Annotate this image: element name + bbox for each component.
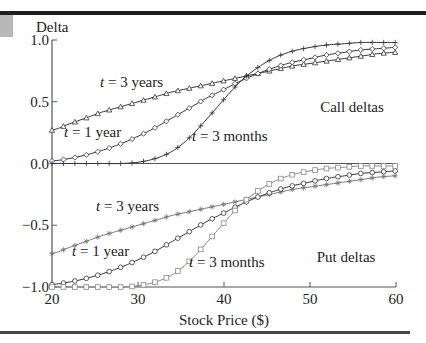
circle-marker [84,276,89,281]
circle-marker [130,260,135,265]
star-marker [347,179,352,184]
star-marker [107,231,112,236]
plus-marker [61,161,66,166]
square-marker [130,284,135,289]
circle-marker [73,279,78,284]
diamond-marker [301,57,306,62]
diamond-marker [107,145,112,150]
plus-marker [324,42,329,47]
circle-marker [347,173,352,178]
diamond-marker [393,45,398,50]
plus-marker [290,49,295,54]
diamond-marker [347,49,352,54]
series-square [50,164,398,290]
diamond-marker [221,87,226,92]
call-1y-label: t = 1 year [64,124,121,140]
y-tick-label: 0.0 [30,156,49,172]
star-marker [221,202,226,207]
square-marker [347,164,352,169]
y-tick-label: 0.5 [30,94,49,110]
square-marker [221,221,226,226]
plus-marker [107,161,112,166]
plus-marker [152,156,157,161]
circle-marker [198,223,203,228]
circle-marker [278,187,283,192]
star-marker [198,207,203,212]
star-marker [164,214,169,219]
square-marker [50,285,55,290]
star-marker [210,204,215,209]
star-marker [95,235,100,240]
circle-marker [175,236,180,241]
square-marker [164,276,169,281]
square-marker [210,234,215,239]
diamond-marker [358,47,363,52]
call-3m-label: t = 3 months [192,128,268,144]
plus-marker [347,41,352,46]
plus-marker [370,40,375,45]
diamond-marker [129,136,134,141]
star-marker [129,224,134,229]
diamond-marker [175,112,180,117]
circle-marker [256,195,261,200]
diamond-marker [187,106,192,111]
put-3m-label: t = 3 months [189,254,265,270]
diamond-marker [164,119,169,124]
put-1y-label: t = 1 year [72,243,129,259]
square-marker [393,164,398,169]
labels-group: Delta Stock Price ($) Call deltas Put de… [36,19,384,329]
square-marker [370,164,375,169]
plus-marker [267,58,272,63]
square-marker [95,285,100,290]
plus-marker [301,46,306,51]
y-tick-label: −0.5 [22,217,49,233]
plus-marker [278,52,283,57]
square-marker [73,285,78,290]
x-tick-label: 30 [131,291,146,307]
diamond-marker [324,52,329,57]
plus-marker [84,161,89,166]
square-marker [175,269,180,274]
circle-marker [164,242,169,247]
square-marker [198,247,203,252]
square-marker [153,280,158,285]
diamond-marker [152,125,157,130]
diamond-marker [290,60,295,65]
circle-marker [301,181,306,186]
square-marker [107,285,112,290]
star-marker [152,218,157,223]
square-marker [336,165,341,170]
circle-marker [187,229,192,234]
delta-chart: 1.00.50.0−0.5−1.02030405060 Delta Stock … [0,0,426,343]
circle-marker [210,216,215,221]
plus-marker [393,40,398,45]
circle-marker [118,265,123,270]
circle-marker [393,169,398,174]
diamond-marker [141,131,146,136]
square-marker [141,283,146,288]
put-deltas-label: Put deltas [317,249,376,265]
diamond-marker [84,152,89,157]
plus-marker [95,161,100,166]
square-marker [313,168,318,173]
circle-marker [141,255,146,260]
star-marker [312,184,317,189]
x-tick-label: 40 [217,291,232,307]
diamond-marker [72,155,77,160]
diamond-marker [381,46,386,51]
star-marker [61,247,66,252]
square-marker [256,189,261,194]
circle-marker [107,269,112,274]
square-marker [61,285,66,290]
square-marker [324,166,329,171]
circle-marker [153,249,158,254]
square-marker [267,182,272,187]
star-marker [324,182,329,187]
circle-marker [370,170,375,175]
x-tick-label: 50 [303,291,318,307]
y-axis-label: Delta [36,19,69,35]
plus-marker [118,161,123,166]
x-tick-label: 60 [389,291,404,307]
plus-marker [335,42,340,47]
star-marker [187,209,192,214]
